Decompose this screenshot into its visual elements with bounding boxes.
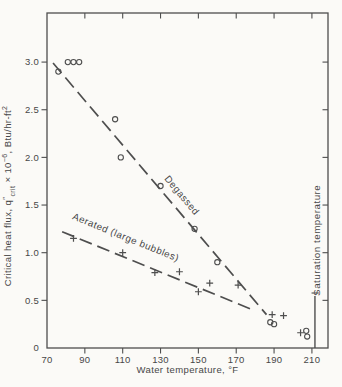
data-point-circle — [118, 155, 123, 160]
data-point-circle — [158, 183, 163, 188]
data-point-circle — [77, 59, 82, 64]
data-point-circle — [305, 334, 310, 339]
y-axis-title-segment: crit — [9, 186, 16, 197]
x-tick-label: 110 — [115, 354, 131, 365]
x-axis-title: Water temperature, °F — [136, 364, 238, 375]
y-tick-label: 1.0 — [25, 247, 39, 258]
data-point-circle — [71, 59, 76, 64]
data-point-plus — [280, 312, 287, 319]
y-tick-label: 0 — [33, 342, 39, 353]
data-point-circle — [113, 117, 118, 122]
data-point-plus — [269, 311, 276, 318]
data-point-circle — [304, 328, 309, 333]
plot-frame — [47, 13, 328, 348]
data-point-plus — [176, 268, 183, 275]
data-point-circle — [215, 260, 220, 265]
y-axis-title-segment: , Btu/hr-ft — [2, 110, 13, 153]
data-point-plus — [297, 329, 304, 336]
critical-heat-flux-vs-water-temperature-chart: 709011013015017019021000.51.01.52.02.53.… — [0, 0, 342, 387]
series-label-aerated: Aerated (large bubbles) — [71, 211, 181, 264]
y-tick-label: 3.0 — [25, 56, 39, 67]
scanned-figure-page: 709011013015017019021000.51.01.52.02.53.… — [0, 0, 342, 387]
y-tick-label: 2.5 — [25, 104, 39, 115]
saturation-temperature-label: Saturation temperature — [311, 185, 322, 296]
y-tick-label: 0.5 — [25, 295, 39, 306]
y-axis-title-segment: × 10 — [2, 162, 13, 185]
data-point-circle — [65, 59, 70, 64]
x-tick-label: 210 — [304, 354, 321, 365]
y-tick-label: 2.0 — [25, 152, 39, 163]
y-axis-title-segment: −6 — [1, 153, 8, 162]
y-axis-title-segment: 2 — [1, 106, 8, 110]
series-label-degassed: Degassed — [162, 173, 201, 217]
y-axis-title: Critical heat flux, q″crit × 10−6, Btu/h… — [1, 106, 16, 287]
x-tick-label: 70 — [41, 354, 52, 365]
x-tick-label: 190 — [266, 354, 283, 365]
data-point-plus — [195, 288, 202, 295]
data-point-plus — [206, 280, 213, 287]
y-tick-label: 1.5 — [25, 199, 39, 210]
x-tick-label: 90 — [79, 354, 90, 365]
y-axis-title-segment: Critical heat flux, q — [2, 200, 13, 287]
